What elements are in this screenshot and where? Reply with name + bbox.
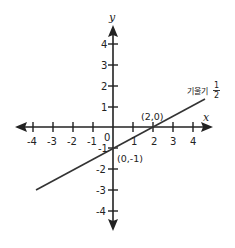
slope-denominator: 2 <box>214 91 219 100</box>
y-tick-labels: 4 3 2 1 -1 -2 -3 -4 <box>96 39 108 217</box>
y-tick-label: 3 <box>101 60 107 71</box>
x-tick-labels: -4 -3 -2 -1 1 2 3 4 <box>27 136 196 147</box>
x-tick-label: 4 <box>190 136 196 147</box>
y-tick-label: -3 <box>96 185 106 196</box>
y-tick-label: 1 <box>101 102 107 113</box>
y-axis <box>108 25 118 231</box>
x-tick-label: 1 <box>131 136 137 147</box>
y-intercept-label: (0,-1) <box>117 153 143 164</box>
x-intercept-label: (2,0) <box>141 111 164 122</box>
y-tick-label: -1 <box>98 143 108 154</box>
slope-numerator: 1 <box>214 81 219 90</box>
y-tick-label: 2 <box>101 81 107 92</box>
y-tick-label: 4 <box>101 39 107 50</box>
x-tick-label: -2 <box>67 136 77 147</box>
x-axis <box>15 122 213 132</box>
slope-annotation: 기울기 1 2 <box>187 81 220 100</box>
line-slope-half <box>36 99 205 190</box>
y-tick-label: -2 <box>96 164 106 175</box>
coordinate-plane: y x -4 -3 -2 -1 1 2 3 4 0 4 3 2 1 -1 -2 … <box>0 0 235 248</box>
x-tick-label: -4 <box>27 136 37 147</box>
y-tick-label: -4 <box>96 206 106 217</box>
x-tick-label: 3 <box>170 136 176 147</box>
x-tick-label: -3 <box>47 136 57 147</box>
slope-label: 기울기 <box>187 87 208 96</box>
x-tick-label: 2 <box>151 136 157 147</box>
origin-label: 0 <box>104 132 110 143</box>
x-axis-label: x <box>203 111 210 124</box>
y-axis-label: y <box>108 11 116 24</box>
x-tick-label: -1 <box>87 136 97 147</box>
